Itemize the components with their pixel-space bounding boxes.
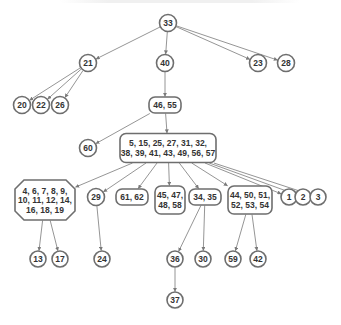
node-label: 23	[253, 58, 263, 68]
tree-node-n37: 37	[167, 292, 183, 308]
edge-n21-to-n22	[48, 69, 82, 99]
node-label: 13	[33, 254, 43, 264]
node-label: 46, 55	[153, 100, 177, 110]
edge-n44_54-to-n59	[235, 215, 245, 251]
edge-nbig-to-noct	[76, 163, 133, 187]
node-label: 40	[160, 58, 170, 68]
node-label: 44, 50, 51,	[230, 190, 270, 200]
nodes: 332140232820222646, 55605, 15, 25, 27, 3…	[14, 15, 327, 309]
tree-node-n45_58: 45, 47,48, 58	[155, 186, 185, 214]
node-label: 1	[287, 192, 292, 202]
edge-n21-to-n20	[30, 68, 81, 100]
tree-node-n30: 30	[195, 251, 211, 267]
edge-n46_55-to-nbig	[166, 114, 167, 134]
node-label: 21	[83, 58, 93, 68]
tree-node-n46_55: 46, 55	[149, 97, 181, 113]
node-label: 5, 15, 25, 27, 31, 32,	[129, 138, 207, 148]
tree-node-n33: 33	[160, 15, 177, 32]
tree-node-n24: 24	[94, 251, 110, 267]
tree-node-n36: 36	[167, 251, 183, 267]
node-label: 34, 35	[193, 192, 217, 202]
tree-node-n28: 28	[278, 55, 295, 72]
tree-node-nbig: 5, 15, 25, 27, 31, 32,38, 39, 41, 43, 49…	[120, 134, 216, 163]
node-label: 60	[83, 143, 93, 153]
edge-n21-to-n26	[65, 71, 83, 98]
edge-n33-to-n40	[166, 32, 168, 54]
node-label: 36	[170, 254, 180, 264]
edge-n33-to-n21	[96, 27, 160, 59]
tree-node-n40: 40	[157, 55, 174, 72]
node-label: 3	[316, 192, 321, 202]
node-label: 26	[55, 100, 65, 110]
edge-n44_54-to-n42	[252, 215, 257, 251]
edge-nbig-to-n34_35	[179, 163, 198, 189]
node-label: 4, 6, 7, 8, 9,	[23, 186, 68, 196]
edge-n34_35-to-n30	[203, 206, 204, 251]
node-label: 45, 47,	[157, 190, 183, 200]
edge-noct-to-n17	[50, 221, 58, 251]
tree-diagram: 332140232820222646, 55605, 15, 25, 27, 3…	[0, 0, 341, 325]
node-label: 37	[170, 295, 180, 305]
tree-node-n59: 59	[225, 251, 241, 267]
tree-node-n34_35: 34, 35	[189, 189, 221, 205]
tree-node-n3: 3	[310, 189, 326, 205]
node-label: 16, 18, 19	[26, 205, 64, 215]
tree-node-n29: 29	[88, 189, 105, 206]
node-label: 28	[281, 58, 291, 68]
tree-node-n20: 20	[14, 97, 31, 114]
node-label: 29	[91, 192, 101, 202]
edge-nbig-to-n29	[103, 163, 146, 192]
node-label: 20	[17, 100, 27, 110]
tree-node-n17: 17	[52, 251, 68, 267]
tree-node-n23: 23	[250, 55, 267, 72]
node-label: 48, 58	[158, 200, 182, 210]
node-label: 42	[253, 254, 263, 264]
node-label: 52, 53, 54	[231, 200, 269, 210]
node-label: 38, 39, 41, 43, 49, 56, 57	[121, 148, 216, 158]
edge-nbig-to-n44_54	[192, 163, 228, 186]
node-label: 2	[301, 192, 306, 202]
edge-n33-to-n23	[176, 27, 250, 60]
tree-node-n61_62: 61, 62	[116, 189, 148, 205]
tree-node-noct: 4, 6, 7, 8, 9,10, 11, 12, 14,16, 18, 19	[15, 180, 75, 220]
node-label: 59	[228, 254, 238, 264]
tree-node-n44_54: 44, 50, 51,52, 53, 54	[228, 186, 272, 214]
tree-node-n21: 21	[80, 55, 97, 72]
tree-node-n42: 42	[250, 251, 266, 267]
tree-node-n26: 26	[52, 97, 69, 114]
node-label: 22	[36, 100, 46, 110]
node-label: 30	[198, 254, 208, 264]
tree-node-n2: 2	[295, 189, 311, 205]
tree-node-n22: 22	[33, 97, 50, 114]
node-label: 17	[55, 254, 65, 264]
node-label: 24	[97, 254, 107, 264]
edge-nbig-to-n45_58	[169, 163, 170, 186]
tree-node-n13: 13	[30, 251, 46, 267]
node-label: 61, 62	[120, 192, 144, 202]
node-label: 33	[163, 18, 173, 28]
tree-node-n60: 60	[80, 140, 97, 157]
edge-noct-to-n13	[39, 221, 43, 251]
node-label: 10, 11, 12, 14,	[18, 195, 72, 205]
edge-n29-to-n24	[97, 206, 101, 251]
